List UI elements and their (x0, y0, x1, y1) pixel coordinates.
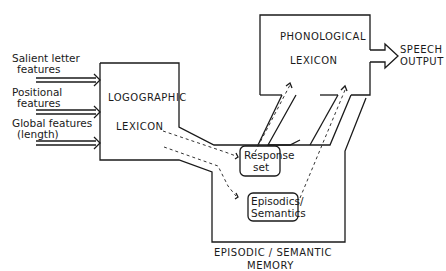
memory-label-line1: EPISODIC / SEMANTIC (214, 247, 332, 258)
logographic-label-line1: LOGOGRAPHIC (108, 92, 187, 103)
response-set-line1: Response (244, 149, 294, 161)
diagram-canvas: Salient letter features Positional featu… (0, 0, 446, 271)
phonological-label-line2: LEXICON (290, 55, 338, 66)
episodics-line1: Episodics/ (251, 195, 304, 207)
input-salient-line2: features (17, 63, 60, 75)
response-set-line2: set (253, 161, 269, 173)
input-positional-line2: features (17, 97, 60, 109)
input-arrow-salient (36, 74, 100, 86)
episodics-line2: Semantics (251, 207, 306, 219)
input-global-line2: (length) (17, 128, 59, 140)
memory-label-line2: MEMORY (247, 260, 294, 271)
speech-output-line1: SPEECH (400, 44, 443, 55)
speech-output-arrow (370, 44, 398, 68)
logographic-lexicon-box (100, 63, 300, 145)
logographic-label-line2: LEXICON (116, 121, 164, 132)
phonological-label-line1: PHONOLOGICAL (280, 31, 366, 42)
speech-output-line2: OUTPUT (400, 56, 444, 67)
